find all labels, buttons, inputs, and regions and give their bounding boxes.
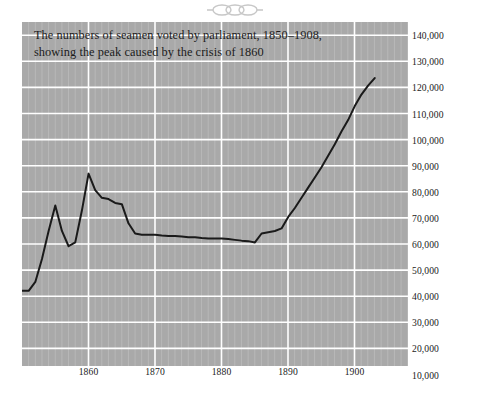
chart-canvas [22,22,408,366]
y-tick-label: 70,000 [412,212,474,223]
y-tick-label: 80,000 [412,186,474,197]
x-tick-label: 1900 [332,366,378,377]
y-tick-label: 30,000 [412,317,474,328]
chart-title-line-2: showing the peak caused by the crisis of… [34,44,364,61]
y-tick-label: 130,000 [412,56,474,67]
ornament-flourish-icon [195,1,275,19]
x-tick-label: 1870 [132,366,178,377]
y-tick-label: 20,000 [412,343,474,354]
plot-area [22,22,408,366]
y-tick-label: 10,000 [412,369,474,380]
x-tick-label: 1860 [66,366,112,377]
x-tick-label: 1880 [199,366,245,377]
y-tick-label: 120,000 [412,82,474,93]
chart-title: The numbers of seamen voted by parliamen… [34,27,364,60]
y-tick-label: 100,000 [412,134,474,145]
y-tick-label: 110,000 [412,108,474,119]
x-tick-label: 1890 [265,366,311,377]
y-tick-label: 140,000 [412,30,474,41]
y-tick-label: 60,000 [412,239,474,250]
y-tick-label: 40,000 [412,291,474,302]
y-tick-label: 50,000 [412,265,474,276]
chart-title-line-1: The numbers of seamen voted by parliamen… [34,27,364,44]
figure: 140,000 130,000 120,000 110,000 100,000 … [0,0,478,395]
y-tick-label: 90,000 [412,160,474,171]
